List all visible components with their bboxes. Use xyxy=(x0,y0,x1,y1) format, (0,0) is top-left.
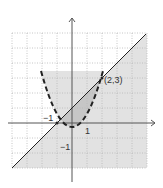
intersection-point xyxy=(56,122,59,125)
graph: (2,3) −1 1 −1 xyxy=(0,0,163,188)
x-label-1: 1 xyxy=(85,126,90,136)
y-label-neg-1: −1 xyxy=(60,142,70,152)
point-label-2-3: (2,3) xyxy=(104,75,123,85)
x-label-neg-1: −1 xyxy=(43,113,53,123)
